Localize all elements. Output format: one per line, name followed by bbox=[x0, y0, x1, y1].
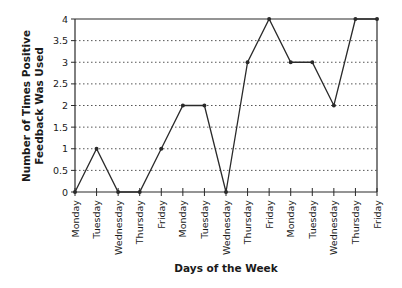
y-tick-label: 2 bbox=[62, 100, 68, 111]
data-point bbox=[116, 190, 120, 194]
data-point bbox=[181, 104, 185, 108]
x-tick-label: Thursday bbox=[350, 200, 361, 246]
data-point bbox=[95, 147, 99, 151]
data-series bbox=[73, 17, 379, 194]
data-point bbox=[138, 190, 142, 194]
x-tick-label: Monday bbox=[177, 200, 188, 238]
data-point bbox=[310, 60, 314, 64]
x-tick-label: Tuesday bbox=[91, 200, 102, 240]
x-axis-ticks: MondayTuesdayWednesdayThursdayFridayMond… bbox=[70, 188, 383, 255]
x-tick-label: Wednesday bbox=[328, 200, 339, 255]
y-axis-label-line2: Feedback Was Used bbox=[33, 47, 45, 165]
data-point bbox=[246, 60, 250, 64]
data-point bbox=[332, 104, 336, 108]
data-point bbox=[224, 190, 228, 194]
x-tick-label: Monday bbox=[285, 200, 296, 238]
x-tick-label: Wednesday bbox=[221, 200, 232, 255]
x-tick-label: Tuesday bbox=[199, 200, 210, 240]
x-tick-label: Friday bbox=[264, 200, 275, 229]
y-tick-label: 2.5 bbox=[53, 78, 68, 89]
y-tick-label: 4 bbox=[62, 14, 68, 25]
x-axis-label: Days of the Week bbox=[174, 262, 278, 274]
data-point bbox=[353, 17, 357, 21]
y-tick-label: 1 bbox=[62, 143, 68, 154]
data-point bbox=[267, 17, 271, 21]
data-point bbox=[289, 60, 293, 64]
data-point bbox=[73, 190, 77, 194]
x-tick-label: Thursday bbox=[242, 200, 253, 246]
x-tick-label: Friday bbox=[156, 200, 167, 229]
x-tick-label: Monday bbox=[70, 200, 81, 238]
data-point bbox=[202, 104, 206, 108]
x-tick-label: Tuesday bbox=[307, 200, 318, 240]
line-chart: 00.511.522.533.54 MondayTuesdayWednesday… bbox=[0, 0, 402, 288]
y-tick-label: 1.5 bbox=[53, 122, 68, 133]
y-tick-label: 0.5 bbox=[53, 165, 68, 176]
x-tick-label: Thursday bbox=[134, 200, 145, 246]
gridlines bbox=[75, 41, 377, 171]
y-axis-label-line1: Number of Times Positive bbox=[20, 30, 32, 182]
data-point bbox=[159, 147, 163, 151]
y-tick-label: 3 bbox=[62, 57, 68, 68]
y-axis-ticks: 00.511.522.533.54 bbox=[53, 14, 75, 198]
x-tick-label: Friday bbox=[372, 200, 383, 229]
data-point bbox=[375, 17, 379, 21]
y-tick-label: 3.5 bbox=[53, 35, 68, 46]
y-tick-label: 0 bbox=[62, 187, 68, 198]
x-tick-label: Wednesday bbox=[113, 200, 124, 255]
